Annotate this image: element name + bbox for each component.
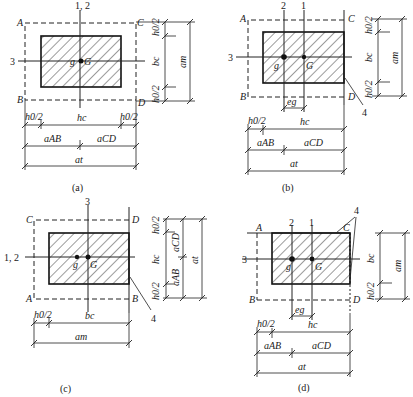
dim-aCD: aCD	[304, 137, 324, 148]
dim-eg: eg	[295, 304, 304, 315]
dim-am: am	[389, 52, 400, 64]
dim-bc: bc	[365, 253, 376, 263]
corner-label-A: A	[16, 17, 24, 28]
corner-label-B: B	[249, 294, 255, 305]
dim-at: at	[75, 154, 83, 165]
caption-c: (c)	[60, 383, 71, 395]
dim-h0-half-left: h0/2	[248, 115, 266, 126]
corner-label-B: B	[17, 94, 23, 105]
point-label-G: G	[84, 56, 91, 67]
dim-hc: hc	[308, 319, 318, 330]
corner-label-C: C	[348, 13, 355, 24]
dim-bc: bc	[363, 52, 374, 62]
edge-marker-leader-right	[350, 217, 356, 280]
caption-b: (b)	[282, 182, 294, 194]
dim-h0-half-bottom: h0/2	[363, 80, 374, 98]
dim-aAB: aAB	[170, 269, 181, 286]
panel-b: 2 1 3 A C B D g G eg 4 h0/2 bc h0/2 am	[228, 0, 407, 194]
corner-label-C: C	[137, 17, 144, 28]
point-g	[281, 54, 287, 60]
dim-aAB: aAB	[257, 137, 274, 148]
dim-h0-half-bottom: h0/2	[150, 282, 161, 300]
dim-h0-half-top: h0/2	[363, 16, 374, 34]
corner-label-C: C	[26, 214, 33, 225]
axis-label-1: 1	[309, 217, 314, 228]
point-label-g: g	[73, 259, 78, 270]
bottom-dimensions: h0/2 hc aAB aCD at	[254, 313, 353, 377]
dim-aAB: aAB	[264, 340, 281, 351]
corner-label-A: A	[239, 13, 247, 24]
caption-d: (d)	[298, 382, 310, 394]
dim-h0-half-left: h0/2	[25, 111, 43, 122]
point-label-G: G	[315, 261, 322, 272]
bottom-dimensions: h0/2 hc aAB aCD at	[245, 105, 347, 175]
right-dimensions: h0/2 hc h0/2 aCD aAB at	[150, 216, 207, 301]
dim-hc: hc	[150, 254, 161, 264]
dim-h0-half-top: h0/2	[150, 18, 161, 36]
edge-marker-4: 4	[362, 107, 367, 118]
point-G	[302, 55, 306, 59]
dim-am: am	[177, 56, 188, 68]
dim-aAB: aAB	[44, 133, 61, 144]
dim-bc: bc	[85, 310, 95, 321]
bottom-dimensions: h0/2 hc h0/2 aAB aCD at	[22, 100, 139, 170]
corner-label-D: D	[137, 97, 146, 108]
dim-hc: hc	[77, 112, 87, 123]
dim-h0-half-top: h0/2	[150, 216, 161, 234]
axis-label-3: 3	[85, 196, 90, 207]
axis-label-3: 3	[228, 52, 233, 63]
corner-label-B: B	[132, 293, 138, 304]
right-dimensions: h0/2 bc h0/2 am	[363, 16, 407, 99]
edge-marker-4: 4	[354, 205, 359, 216]
edge-marker-4: 4	[151, 313, 156, 324]
dim-h0-half-bottom: h0/2	[150, 85, 161, 103]
point-G	[310, 257, 315, 262]
dim-aCD: aCD	[97, 133, 117, 144]
panel-c: 3 1, 2 C D A B g G 4 h0/2 hc h0/2 aCD aA…	[4, 196, 207, 395]
corner-label-D: D	[131, 214, 140, 225]
point-label-G: G	[306, 60, 313, 71]
point-label-G: G	[90, 259, 97, 270]
dim-h0-half-left: h0/2	[34, 309, 52, 320]
axis-label-2: 2	[281, 0, 286, 11]
dim-am: am	[75, 331, 87, 342]
bottom-dimensions: h0/2 bc am	[31, 309, 132, 348]
dim-at: at	[189, 256, 200, 264]
corner-label-A: A	[255, 222, 263, 233]
dim-eg: eg	[287, 96, 296, 107]
dim-am: am	[392, 260, 403, 272]
axis-label-horizontal: 3	[10, 56, 15, 67]
critical-section-diagram: 1, 2 3 A C B D g G h0/2 bc h0/2 am	[0, 0, 413, 397]
point-label-g: g	[274, 60, 279, 71]
point-label-g: g	[286, 261, 291, 272]
caption-a: (a)	[72, 182, 83, 194]
dim-h0-half-bottom: h0/2	[365, 282, 376, 300]
corner-label-A: A	[25, 293, 33, 304]
dim-hc: hc	[300, 116, 310, 127]
dim-bc: bc	[150, 56, 161, 66]
dim-at: at	[290, 158, 298, 169]
right-dimensions: bc h0/2 am	[365, 230, 410, 302]
dim-h0-half-left: h0/2	[257, 318, 275, 329]
dim-aCD: aCD	[312, 340, 332, 351]
dim-aCD: aCD	[170, 232, 181, 252]
centroid-point	[79, 59, 84, 64]
axis-label-vertical: 1, 2	[75, 0, 90, 11]
point-label-g: g	[70, 56, 75, 67]
axis-label-2: 2	[289, 217, 294, 228]
dim-h0-half-right: h0/2	[120, 111, 138, 122]
dim-at: at	[298, 361, 306, 372]
panel-d: 2 1 3 A C B D g G eg 4 bc h0/2 am	[242, 205, 410, 394]
corner-label-B: B	[240, 91, 246, 102]
panel-a: 1, 2 3 A C B D g G h0/2 bc h0/2 am	[10, 0, 195, 194]
axis-label-3: 3	[242, 254, 247, 265]
axis-label-1-2: 1, 2	[4, 252, 19, 263]
corner-label-D: D	[352, 294, 361, 305]
axis-label-1: 1	[301, 0, 306, 11]
